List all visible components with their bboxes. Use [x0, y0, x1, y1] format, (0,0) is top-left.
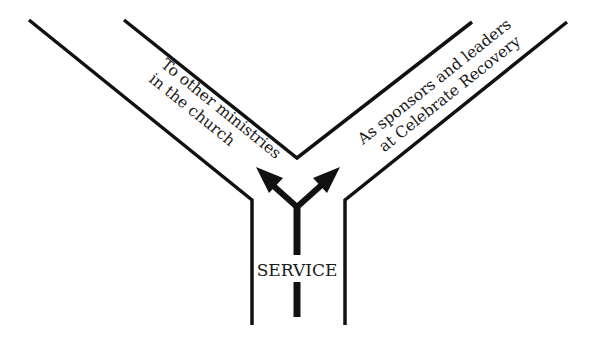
y-diagram: SERVICE To other ministries in the churc… [0, 0, 597, 343]
stem-label: SERVICE [257, 260, 338, 280]
right-branch-line-2: at Celebrate Recovery [376, 32, 525, 155]
outer-left-wall [29, 20, 252, 325]
